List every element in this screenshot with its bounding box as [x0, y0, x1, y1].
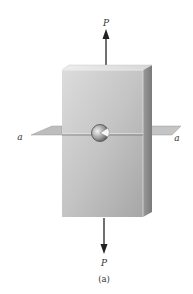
figure-caption: (a): [98, 274, 110, 284]
arrow-head-down-icon: [101, 244, 108, 254]
block-top-face: [62, 65, 152, 70]
plane-label-right: a: [174, 133, 179, 143]
plane-label-left: a: [17, 132, 22, 142]
top-force-label: P: [102, 18, 110, 28]
arrow-head-up-icon: [103, 29, 110, 39]
bottom-force-label: P: [100, 258, 108, 268]
block-side-face: [143, 65, 152, 217]
block-front-face: [62, 70, 143, 217]
top-force-arrow: [103, 29, 110, 66]
bottom-force-arrow: [101, 218, 108, 254]
plate-with-hole-diagram: P a a P (a): [0, 0, 193, 294]
